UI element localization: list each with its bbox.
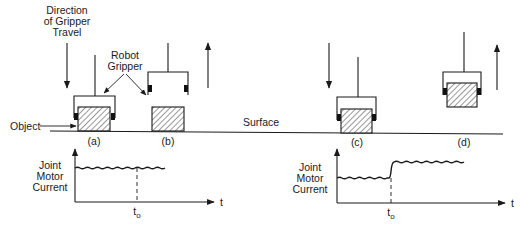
gripper-current-diagram: Direction of Gripper Travel (a) Robot Gr… [0,0,520,225]
object-b [152,107,184,131]
panel-b-label: (b) [162,135,175,147]
gripper-b-bracket [148,72,188,95]
surface: Surface [50,116,503,134]
direction-label: Direction of Gripper Travel [44,4,91,38]
svg-text:Current: Current [32,181,67,193]
plot-left: Joint Motor Current t to [32,149,223,220]
object-label: Object [10,120,76,132]
gripper-a-pad-right [111,113,115,120]
object-a [78,107,110,131]
object-d [447,83,477,107]
panel-c-label: (c) [351,136,363,148]
svg-text:t: t [511,197,514,209]
panel-a-label: (a) [88,135,101,147]
gripper-c-pad-left [337,114,341,121]
gripper-b-pad-left [148,85,152,92]
gripper-b-pad-right [184,85,188,92]
svg-text:Travel: Travel [53,26,82,38]
plot-right: Joint Motor Current t to [292,149,514,221]
gripper-a-pad-left [74,113,78,120]
surface-label: Surface [243,116,279,128]
object-c [341,109,372,133]
gripper-d-pad-left [443,88,447,95]
panel-d: (d) [443,32,497,148]
gripper-d-pad-right [477,88,481,95]
panel-c: (c) [329,43,376,148]
t0-label: to [133,205,141,220]
gripper-c-pad-right [372,114,376,121]
current-signal [75,167,165,169]
t0-label: to [387,206,395,221]
svg-text:t: t [220,196,223,208]
svg-text:Object: Object [10,120,40,132]
svg-text:Gripper: Gripper [107,60,143,72]
robot-gripper-label: Robot Gripper [104,49,146,95]
svg-text:Current: Current [292,183,327,195]
current-signal [337,161,464,179]
panel-d-label: (d) [458,136,471,148]
